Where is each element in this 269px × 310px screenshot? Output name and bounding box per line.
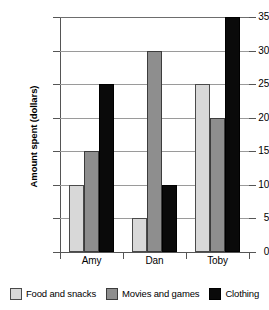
bar	[162, 185, 177, 252]
y-axis-tick-mark-right	[249, 185, 256, 186]
bar	[84, 151, 99, 252]
chart-legend: Food and snacksMovies and gamesClothing	[0, 286, 269, 302]
bar	[195, 84, 210, 252]
legend-label: Movies and games	[122, 289, 199, 299]
bar	[99, 84, 114, 252]
x-axis-group-separator	[186, 253, 187, 259]
legend-swatch-icon	[209, 288, 221, 300]
legend-item: Food and snacks	[10, 288, 96, 300]
y-axis-tick-mark	[53, 185, 60, 186]
x-axis-group-separator	[60, 253, 61, 259]
y-axis-tick-mark	[53, 84, 60, 85]
bar	[147, 51, 162, 252]
legend-label: Clothing	[225, 289, 259, 299]
legend-swatch-icon	[106, 288, 118, 300]
x-axis-tick-label: Amy	[60, 255, 123, 266]
y-axis-tick-mark	[53, 151, 60, 152]
x-axis-tick-label: Dan	[123, 255, 186, 266]
y-axis-tick-mark	[53, 218, 60, 219]
y-axis-tick-mark-right	[249, 17, 256, 18]
legend-item: Movies and games	[106, 288, 199, 300]
y-axis-tick-mark	[53, 252, 60, 253]
y-axis-tick-mark	[53, 17, 60, 18]
y-axis-title: Amount spent (dollars)	[28, 42, 39, 232]
bar	[69, 185, 84, 252]
x-axis-group-separator	[249, 253, 250, 259]
legend-item: Clothing	[209, 288, 259, 300]
y-axis-tick-mark-right	[249, 51, 256, 52]
y-axis-tick-mark-right	[249, 151, 256, 152]
y-axis-tick-mark-right	[249, 218, 256, 219]
y-axis-tick-mark	[53, 118, 60, 119]
y-axis-tick-mark-right	[249, 84, 256, 85]
x-axis-tick-label: Toby	[186, 255, 249, 266]
bar	[132, 218, 147, 252]
bar	[210, 118, 225, 252]
y-axis-tick-mark-right	[249, 118, 256, 119]
bar	[225, 17, 240, 252]
bar-chart: Amount spent (dollars) 05101520253035 Am…	[0, 0, 269, 310]
legend-label: Food and snacks	[26, 289, 96, 299]
gridline	[60, 17, 249, 18]
plot-area	[60, 17, 249, 252]
x-axis-group-separator	[123, 253, 124, 259]
legend-swatch-icon	[10, 288, 22, 300]
y-axis-tick-mark	[53, 51, 60, 52]
x-axis-line	[60, 252, 256, 253]
